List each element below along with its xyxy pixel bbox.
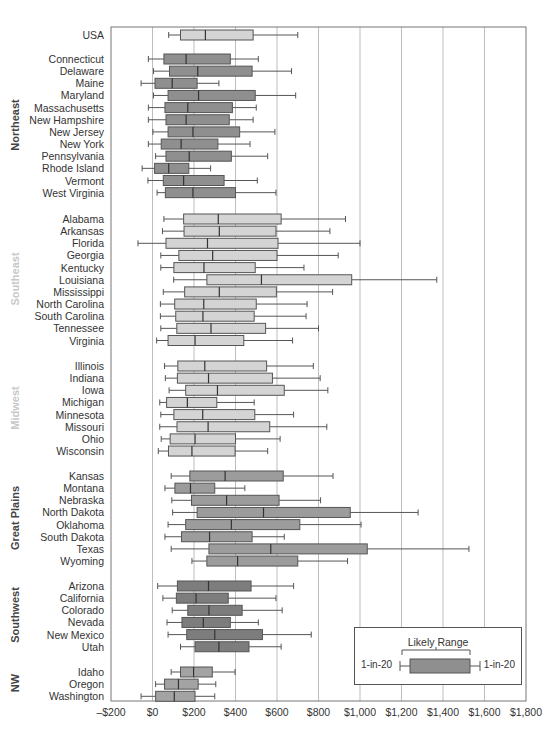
x-tick-label: $1,200 [385,706,417,718]
legend: Likely Range 1-in-20 1-in-20 [354,627,522,685]
row-label: Rhode Island [42,162,104,174]
row-label: North Carolina [36,298,104,310]
row-label: Oklahoma [56,519,104,531]
row-label: Mississippi [53,286,104,298]
box-vermont [163,176,224,186]
box-arkansas [184,226,276,236]
row-label: Montana [63,482,104,494]
row-label: Utah [82,641,104,653]
row-label: Vermont [65,175,104,187]
row-label: Pennsylvania [42,150,104,162]
box-nevada [182,617,230,627]
box-mississippi [185,287,277,297]
box-new-mexico [187,630,263,640]
region-label-southeast: Southeast [9,219,21,339]
box-maryland [168,90,255,100]
x-tick-label: $1,400 [427,706,459,718]
row-label: Iowa [82,384,104,396]
box-kentucky [174,263,255,273]
boxplot-chart: USAConnecticutDelawareMaineMarylandMassa… [0,0,552,733]
box-oklahoma [186,520,300,530]
box-california [176,593,228,603]
x-tick-label: $200 [182,706,205,718]
row-label: Kentucky [61,262,104,274]
row-label: Tennessee [53,322,104,334]
row-label: Wisconsin [56,445,104,457]
legend-right-label: 1-in-20 [484,659,515,670]
row-label: Wyoming [60,555,104,567]
box-south-dakota [182,532,253,542]
row-label: Nevada [68,616,104,628]
box-wisconsin [168,446,235,456]
row-label: Kansas [69,470,104,482]
x-tick-label: $400 [224,706,247,718]
box-montana [175,483,215,493]
box-florida [166,238,278,248]
x-tick-label: $800 [307,706,330,718]
row-label: Connecticut [49,53,104,65]
row-label: South Dakota [40,531,104,543]
row-label: New York [60,138,104,150]
row-label: Ohio [82,433,104,445]
x-tick-label: $600 [265,706,288,718]
row-label: Michigan [62,396,104,408]
row-label: Idaho [78,666,104,678]
row-label: Alabama [63,213,104,225]
row-label: North Dakota [42,506,104,518]
box-virginia [168,336,244,346]
box-nebraska [192,495,280,505]
row-label: Washington [49,690,104,702]
region-label-midwest: Midwest [9,348,21,468]
box-north-dakota [197,507,350,517]
row-label: Missouri [65,421,104,433]
row-label: Louisiana [59,274,104,286]
box-washington [156,691,195,701]
box-massachusetts [165,103,232,113]
box-oregon [165,679,199,689]
row-label: Arizona [68,580,104,592]
row-label: Indiana [70,372,104,384]
x-tick-label: $1,800 [510,706,542,718]
box-maine [155,78,197,88]
box-pennsylvania [166,151,231,161]
row-label: Georgia [67,249,104,261]
box-arizona [177,581,251,591]
x-tick-label: $1,600 [468,706,500,718]
box-idaho [181,667,213,677]
row-label: West Virginia [43,187,104,199]
box-new-jersey [168,127,240,137]
row-label: Massachusetts [34,102,104,114]
box-utah [195,642,249,652]
row-label: Maine [75,77,104,89]
row-label: New Jersey [49,126,104,138]
box-missouri [177,422,270,432]
row-label: Illinois [75,360,104,372]
row-label: California [60,592,104,604]
box-wyoming [207,556,298,566]
row-label: Florida [72,237,104,249]
row-label: New Mexico [47,629,104,641]
box-west-virginia [165,188,235,198]
box-kansas [190,471,283,481]
box-new-hampshire [166,115,229,125]
box-colorado [188,605,242,615]
box-usa [181,30,254,40]
row-label: Arkansas [60,225,104,237]
box-alabama [184,214,282,224]
x-tick-label: –$200 [96,706,125,718]
box-ohio [170,434,235,444]
legend-left-label: 1-in-20 [361,659,392,670]
box-indiana [177,373,272,383]
row-label: Texas [77,543,104,555]
box-new-york [161,139,218,149]
region-label-nw: NW [9,623,21,733]
row-label: USA [82,29,104,41]
box-texas [209,544,367,554]
row-label: Nebraska [59,494,104,506]
row-label: Colorado [61,604,104,616]
box-iowa [186,385,285,395]
box-delaware [170,66,253,76]
legend-box-icon [355,628,521,684]
row-label: South Carolina [35,310,104,322]
x-tick-label: $1,000 [344,706,376,718]
